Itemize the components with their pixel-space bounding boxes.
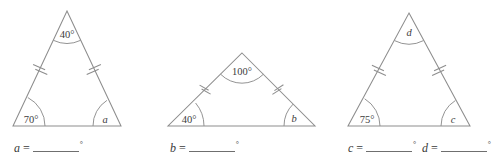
answer-d-variable: d [422, 141, 428, 156]
answer-a-degree-symbol: ° [80, 140, 83, 149]
answer-b-variable: b [170, 141, 176, 156]
answer-c-degree-symbol: ° [413, 140, 416, 149]
triangle-b-svg: 100° 40° b [160, 0, 330, 140]
triangle-c-apex-arc [395, 41, 424, 44]
answer-line-a[interactable]: a = ° [14, 140, 82, 160]
triangle-c-bottom-left-angle-label: 75° [360, 114, 375, 125]
answer-b-equals: = [179, 141, 186, 156]
triangle-b-bottom-left-arc [196, 103, 204, 126]
worksheet-canvas: 40° 70° a 100° [0, 0, 501, 168]
triangle-c-bottom-right-angle-label: c [451, 114, 456, 125]
triangle-a-apex-arc [53, 40, 80, 43]
triangle-b-apex-angle-label: 100° [232, 66, 252, 77]
answer-a-variable: a [14, 141, 20, 156]
triangle-a-right-side-tick-marks [87, 65, 101, 75]
triangle-c-apex-angle-label: d [406, 27, 412, 38]
answer-d-degree-symbol: ° [488, 140, 491, 149]
triangle-c-svg: d 75° c [330, 0, 501, 140]
answer-b-degree-symbol: ° [236, 140, 239, 149]
triangle-c-right-side-tick-marks [432, 65, 446, 75]
triangle-a-bottom-right-angle-label: a [102, 114, 107, 125]
answer-a-equals: = [23, 141, 30, 156]
answer-d-equals: = [431, 141, 438, 156]
answer-a-blank-input[interactable] [33, 140, 79, 152]
answer-c-equals: = [356, 141, 363, 156]
answer-c-variable: c [348, 141, 353, 156]
answer-b-blank-input[interactable] [189, 140, 235, 152]
triangle-a-left-side-tick-marks [33, 65, 47, 75]
triangle-a-bottom-left-angle-label: 70° [24, 114, 39, 125]
triangle-c-left-side-tick-marks [372, 65, 386, 75]
answer-line-c[interactable]: c = ° [348, 140, 415, 160]
triangle-a-svg: 40° 70° a [0, 0, 168, 140]
answer-line-d[interactable]: d = ° [422, 140, 490, 160]
triangle-b-bottom-left-angle-label: 40° [182, 114, 197, 125]
triangle-b-bottom-right-angle-label: b [291, 113, 296, 124]
answer-d-blank-input[interactable] [441, 140, 487, 152]
triangle-a-apex-angle-label: 40° [60, 29, 75, 40]
answer-c-blank-input[interactable] [366, 140, 412, 152]
answer-line-b[interactable]: b = ° [170, 140, 238, 160]
